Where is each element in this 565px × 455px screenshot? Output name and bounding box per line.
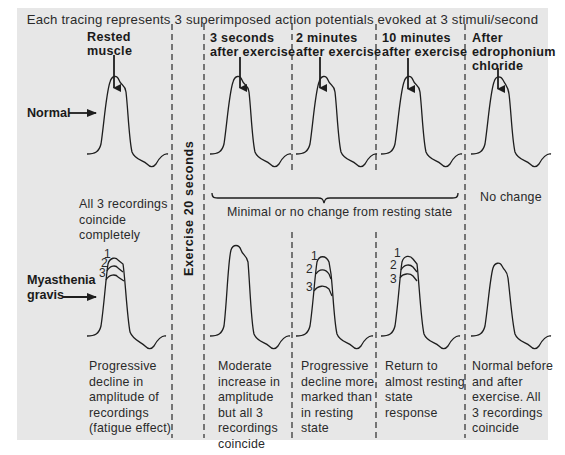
mg-tracings <box>87 246 551 349</box>
mg-trace-group <box>296 257 373 349</box>
mg-trace-group <box>87 258 166 349</box>
brace <box>212 193 458 203</box>
normal-trace <box>210 76 291 166</box>
normal-trace <box>87 76 168 166</box>
normal-tracings <box>87 76 551 166</box>
right-arrow-icons <box>63 113 96 297</box>
down-arrow-icons <box>114 55 498 89</box>
normal-trace <box>471 77 551 167</box>
normal-trace <box>381 76 462 166</box>
tracings-graphic <box>0 0 565 455</box>
mg-trace-group <box>210 246 290 349</box>
normal-trace <box>296 76 377 166</box>
mg-trace-group <box>381 256 460 348</box>
mg-trace-group <box>471 263 551 348</box>
